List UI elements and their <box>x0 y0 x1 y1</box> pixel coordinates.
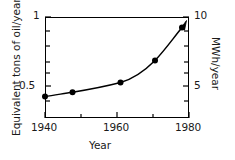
left-axis-tick-label-1: 1 <box>33 10 39 21</box>
right-axis-tick-label-10: 10 <box>194 10 207 21</box>
x-axis-tick-label-1960: 1960 <box>103 122 129 133</box>
chart-figure: 1 0.5 10 5 1940 1960 1980 Year Equivalen… <box>0 0 235 160</box>
data-point-1978 <box>179 25 185 31</box>
left-axis-ticks <box>45 17 51 101</box>
data-points <box>42 25 185 100</box>
x-axis-title: Year <box>89 140 111 151</box>
data-curve <box>45 28 182 97</box>
data-point-1950 <box>70 89 76 95</box>
x-axis-tick-label-1940: 1940 <box>31 122 57 133</box>
right-axis-tick-label-5: 5 <box>194 80 200 91</box>
left-y-axis-title: Equivalent tons of oil/year <box>11 0 22 136</box>
right-y-axis-title: MWh/year <box>211 37 222 90</box>
data-point-1960 <box>118 80 124 86</box>
data-point-1970 <box>152 58 158 64</box>
x-axis-tick-label-1980: 1980 <box>175 122 201 133</box>
data-point-1940 <box>42 94 48 100</box>
bottom-axis-ticks <box>45 112 189 118</box>
